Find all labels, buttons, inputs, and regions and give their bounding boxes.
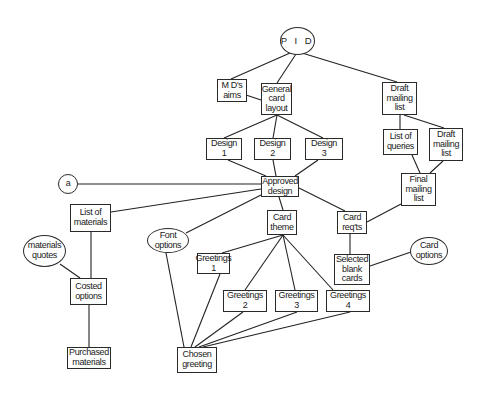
edge-list-of-queries-final	[412, 155, 420, 173]
node-draft-mailing-list-2: Draft mailing list	[429, 128, 463, 161]
node-greetings-3: Greetings 3	[275, 290, 318, 312]
node-label: design	[268, 187, 292, 197]
diagram-canvas: P I D M D's aims General card layout Dra…	[0, 0, 490, 398]
edge-card-theme-greetings-3	[283, 235, 295, 290]
edge-approved-card-theme	[279, 197, 283, 210]
node-label: queries	[387, 142, 414, 152]
node-selected-blank-cards: Selected blank cards	[334, 254, 370, 285]
edge-gcl-design-3	[277, 115, 323, 138]
node-label: 3	[294, 301, 299, 311]
node-design-2: Design 2	[254, 138, 291, 160]
node-label: theme	[270, 223, 293, 233]
edge-md-aims-general-card-layout	[246, 95, 261, 100]
node-general-card-layout: General card layout	[261, 83, 292, 115]
node-greetings-2: Greetings 2	[223, 290, 267, 312]
edge-design-1-approved	[228, 160, 266, 176]
edge-pid-general-card-layout	[277, 54, 296, 83]
node-list-of-queries: List of queries	[383, 129, 418, 155]
edge-approved-card-reqts	[299, 188, 345, 211]
edge-final-card-reqts	[367, 204, 401, 222]
node-label: P I D	[281, 36, 314, 46]
node-label: materials	[74, 218, 107, 228]
edge-dml2-final	[430, 161, 443, 173]
node-card-reqts: Card req'ts	[337, 211, 367, 234]
node-label: layout	[266, 104, 288, 114]
edge-greetings-1-chosen	[191, 274, 220, 347]
edge-pid-md-aims	[231, 53, 290, 79]
node-label: 2	[243, 301, 248, 311]
node-label: 1	[222, 149, 227, 159]
node-purchased-materials: Purchased materials	[67, 347, 111, 369]
node-label: options	[416, 251, 443, 261]
node-label: greeting	[182, 360, 212, 370]
edge-gcl-design-1	[224, 115, 277, 138]
node-label: quotes	[32, 251, 57, 261]
node-label: 4	[346, 301, 351, 311]
edge-design-2-approved	[273, 160, 276, 176]
node-materials-quotes: materials quotes	[23, 235, 66, 267]
node-approved-design: Approved design	[261, 176, 299, 197]
node-pid: P I D	[280, 27, 315, 55]
node-list-of-materials: List of materials	[70, 204, 111, 232]
node-label: req'ts	[342, 223, 362, 233]
edge-greetings-4-chosen	[203, 312, 350, 347]
node-greetings-4: Greetings 4	[326, 290, 370, 312]
node-design-3: Design 3	[305, 138, 343, 160]
node-label: list	[414, 194, 424, 204]
node-font-options: Font options	[147, 228, 189, 253]
node-final-mailing-list: Final mailing list	[401, 173, 436, 206]
node-label: 3	[322, 149, 327, 159]
node-costed-options: Costed options	[70, 278, 107, 305]
edge-materials-quotes-costed	[60, 264, 80, 278]
edge-pid-draft-mailing-list	[302, 53, 397, 82]
node-md-aims: M D's aims	[217, 79, 247, 102]
node-label: 1	[211, 264, 216, 274]
edge-selected-blank-card-options	[370, 252, 411, 266]
node-label: 2	[270, 149, 275, 159]
node-card-theme: Card theme	[267, 210, 297, 235]
edge-font-options-approved	[186, 195, 261, 233]
node-card-options: Card options	[410, 237, 448, 265]
node-connector-a: a	[58, 174, 78, 194]
node-label: materials	[72, 358, 105, 368]
node-label: a	[66, 179, 71, 189]
edge-greetings-2-chosen	[195, 312, 243, 347]
edge-card-theme-greetings-1	[222, 235, 283, 253]
node-label: cards	[342, 274, 362, 284]
node-label: options	[75, 292, 102, 302]
edge-gcl-design-2	[273, 115, 277, 138]
node-label: options	[155, 241, 182, 251]
node-draft-mailing-list: Draft mailing list	[382, 82, 417, 115]
edge-dml-dml2	[404, 115, 444, 128]
node-label: list	[395, 103, 405, 113]
node-label: list	[441, 149, 451, 159]
edge-list-of-materials-approved	[111, 189, 261, 212]
node-label: aims	[223, 91, 241, 101]
edge-font-options-chosen	[166, 253, 184, 347]
node-design-1: Design 1	[206, 138, 242, 160]
edge-design-3-approved	[295, 160, 318, 176]
edge-card-theme-greetings-4	[283, 235, 333, 290]
node-greetings-1: Greetings 1	[197, 253, 230, 274]
edge-greetings-3-chosen	[199, 312, 297, 347]
edge-card-theme-greetings-2	[245, 235, 283, 290]
node-chosen-greeting: Chosen greeting	[177, 347, 217, 373]
